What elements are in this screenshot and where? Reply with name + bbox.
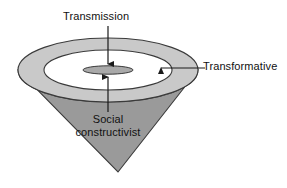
- label-transmission: Transmission: [63, 10, 129, 23]
- cone-diagram-graphic: [0, 0, 287, 188]
- diagram-canvas: Transmission Transformative Social const…: [0, 0, 287, 188]
- label-transformative: Transformative: [203, 60, 277, 73]
- label-social-line1: Social: [58, 113, 158, 126]
- label-social-line2: constructivist: [58, 126, 158, 139]
- center-ellipse: [83, 66, 133, 74]
- label-social-constructivist: Social constructivist: [58, 113, 158, 138]
